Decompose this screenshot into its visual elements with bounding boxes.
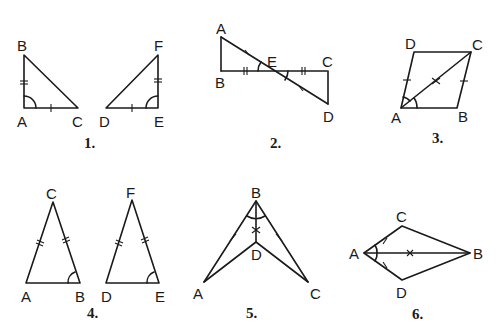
vertex-label: B bbox=[215, 74, 225, 91]
angle-mark-dac bbox=[403, 97, 410, 101]
vertex-label: C bbox=[72, 113, 83, 130]
vertex-label: B bbox=[17, 37, 27, 54]
figure-number: 3. bbox=[432, 130, 444, 146]
geometry-figures-canvas: B A C D E F 1. A B E C D 2. D C A bbox=[0, 0, 503, 333]
vertex-label: D bbox=[101, 288, 112, 305]
angle-mark-a bbox=[24, 96, 36, 108]
vertex-label: F bbox=[126, 184, 135, 201]
vertex-label: B bbox=[75, 288, 85, 305]
angle-mark-b bbox=[68, 272, 75, 283]
figure-6: C A B D 6. bbox=[349, 208, 483, 322]
angle-mark-aeb bbox=[258, 62, 261, 71]
figure-5: B D A C 5. bbox=[193, 184, 321, 321]
vertex-label: D bbox=[323, 108, 334, 125]
vertex-label: B bbox=[251, 184, 261, 201]
figure-number: 1. bbox=[84, 135, 96, 151]
vertex-label: E bbox=[267, 53, 277, 70]
vertex-label: C bbox=[322, 53, 333, 70]
angle-mark-cab bbox=[375, 245, 377, 253]
figure-2: A B E C D 2. bbox=[215, 20, 334, 151]
vertex-label: A bbox=[216, 20, 226, 37]
vertex-label: C bbox=[46, 185, 57, 202]
vertex-label: D bbox=[396, 284, 407, 301]
vertex-label: A bbox=[193, 285, 203, 302]
vertex-label: D bbox=[99, 113, 110, 130]
vertex-label: A bbox=[17, 113, 27, 130]
angle-mark-cab bbox=[414, 98, 417, 108]
vertex-label: C bbox=[472, 36, 483, 53]
vertex-label: F bbox=[154, 37, 163, 54]
vertex-label: C bbox=[396, 208, 407, 225]
vertex-label: A bbox=[391, 109, 401, 126]
triangle-def bbox=[106, 200, 159, 283]
figure-1: B A C D E F 1. bbox=[17, 37, 164, 151]
vertex-label: B bbox=[473, 245, 483, 262]
vertex-label: E bbox=[155, 288, 165, 305]
figure-number: 5. bbox=[246, 305, 258, 321]
triangle-abc bbox=[26, 202, 80, 283]
angle-mark-e bbox=[147, 272, 154, 283]
figure-number: 2. bbox=[270, 135, 282, 151]
triangle-def bbox=[106, 55, 158, 108]
vertex-label: B bbox=[458, 108, 468, 125]
vertex-label: D bbox=[405, 35, 416, 52]
vertex-label: A bbox=[349, 245, 359, 262]
figure-number: 6. bbox=[412, 306, 424, 322]
figure-number: 4. bbox=[87, 305, 99, 321]
angle-mark-e bbox=[146, 96, 158, 108]
vertex-label: C bbox=[310, 285, 321, 302]
figure-4: C A B F D E 4. bbox=[21, 184, 165, 321]
angle-mark-bad bbox=[375, 253, 377, 261]
vertex-label: A bbox=[21, 288, 31, 305]
vertex-label: E bbox=[154, 113, 164, 130]
figure-3: D C A B 3. bbox=[391, 35, 483, 146]
vertex-label: D bbox=[251, 246, 262, 263]
